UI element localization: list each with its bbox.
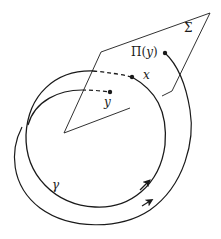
point-y <box>108 90 112 94</box>
label-sigma: Σ <box>184 21 192 35</box>
poincare-map-diagram: Σ Π(y) x y γ <box>0 0 221 239</box>
label-x: x <box>143 68 150 82</box>
label-y: y <box>103 95 111 109</box>
point-x <box>130 75 134 79</box>
point-pi-y <box>163 51 167 55</box>
trajectory-from-y <box>15 53 192 225</box>
label-gamma: γ <box>52 178 60 192</box>
periodic-orbit <box>26 71 165 207</box>
label-pi-y: Π(y) <box>131 45 158 59</box>
